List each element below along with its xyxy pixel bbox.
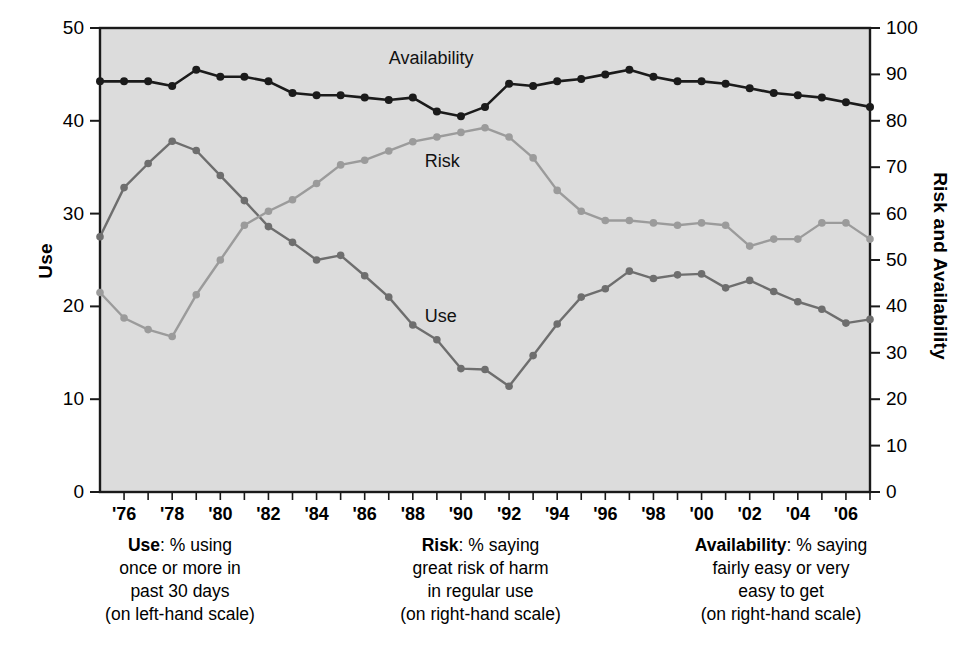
data-point: [698, 219, 706, 227]
data-point: [866, 316, 874, 324]
data-point: [481, 366, 489, 374]
data-point: [481, 103, 489, 111]
y-axis-right-tick-label: 100: [886, 18, 946, 37]
data-point: [770, 288, 778, 296]
data-point: [168, 333, 176, 341]
data-point: [601, 70, 609, 78]
data-point: [457, 112, 465, 120]
data-point: [794, 235, 802, 243]
data-point: [746, 242, 754, 250]
data-point: [361, 156, 369, 164]
y-axis-left-tick-label: 40: [24, 111, 84, 130]
data-point: [337, 161, 345, 169]
data-point: [217, 256, 225, 264]
series-annotation-risk: Risk: [425, 151, 460, 172]
caption-risk: Risk: % sayinggreat risk of harmin regul…: [335, 534, 627, 626]
data-point: [577, 293, 585, 301]
data-point: [313, 91, 321, 99]
data-point: [649, 73, 657, 81]
y-axis-right-tick-label: 10: [886, 436, 946, 455]
y-axis-left-tick-label: 10: [24, 389, 84, 408]
data-point: [192, 291, 200, 299]
y-axis-right-tick-label: 20: [886, 389, 946, 408]
caption-line: easy to get: [635, 580, 927, 603]
data-point: [866, 103, 874, 111]
y-axis-left-tick-label: 0: [24, 482, 84, 501]
data-point: [866, 235, 874, 243]
data-point: [818, 305, 826, 313]
caption-line: (on right-hand scale): [635, 603, 927, 626]
data-point: [553, 187, 561, 195]
data-point: [626, 217, 634, 225]
data-point: [120, 314, 128, 322]
data-point: [481, 124, 489, 132]
caption-line: great risk of harm: [335, 557, 627, 580]
data-point: [577, 75, 585, 83]
caption-line: (on left-hand scale): [34, 603, 326, 626]
data-point: [505, 80, 513, 88]
y-axis-left-tick-label: 50: [24, 18, 84, 37]
data-point: [818, 94, 826, 102]
data-point: [192, 66, 200, 74]
data-point: [770, 235, 778, 243]
caption-line: (on right-hand scale): [335, 603, 627, 626]
y-axis-right-tick-label: 50: [886, 250, 946, 269]
data-point: [192, 147, 200, 155]
data-point: [265, 223, 273, 231]
caption-line: once or more in: [34, 557, 326, 580]
data-point: [241, 221, 249, 229]
y-axis-right-tick-label: 40: [886, 296, 946, 315]
data-point: [409, 138, 417, 146]
y-axis-right-tick-label: 90: [886, 64, 946, 83]
data-point: [120, 77, 128, 85]
data-point: [241, 197, 249, 205]
data-point: [842, 219, 850, 227]
data-point: [264, 77, 272, 85]
data-point: [433, 108, 441, 116]
data-point: [650, 275, 658, 283]
data-point: [674, 271, 682, 279]
caption-line: fairly easy or very: [635, 557, 927, 580]
data-point: [433, 133, 441, 141]
data-point: [625, 66, 633, 74]
data-point: [650, 219, 658, 227]
data-point: [120, 184, 128, 192]
caption-line: Risk: % saying: [335, 534, 627, 557]
data-point: [722, 221, 730, 229]
y-axis-right-tick-label: 30: [886, 343, 946, 362]
data-point: [289, 89, 297, 97]
data-point: [433, 336, 441, 344]
data-point: [240, 73, 248, 81]
caption-use: Use: % usingonce or more inpast 30 days(…: [34, 534, 326, 626]
data-point: [409, 94, 417, 102]
data-point: [409, 321, 417, 329]
data-point: [722, 80, 730, 88]
data-point: [337, 252, 345, 260]
data-point: [602, 285, 610, 293]
caption-line: past 30 days: [34, 580, 326, 603]
caption-availability: Availability: % sayingfairly easy or ver…: [635, 534, 927, 626]
y-axis-right-tick-label: 60: [886, 204, 946, 223]
data-point: [674, 77, 682, 85]
data-point: [361, 94, 369, 102]
data-point: [842, 319, 850, 327]
data-point: [842, 98, 850, 106]
data-point: [505, 133, 513, 141]
data-point: [216, 73, 224, 81]
data-point: [553, 77, 561, 85]
data-point: [794, 298, 802, 306]
data-point: [553, 320, 561, 328]
data-point: [529, 154, 537, 162]
y-axis-left-tick-label: 30: [24, 204, 84, 223]
caption-row: Use: % usingonce or more inpast 30 days(…: [0, 534, 961, 662]
data-point: [289, 196, 297, 204]
caption-term: Use: [128, 535, 160, 555]
data-point: [217, 172, 225, 180]
data-point: [529, 82, 537, 90]
y-axis-right-tick-label: 80: [886, 111, 946, 130]
caption-line: in regular use: [335, 580, 627, 603]
data-point: [361, 272, 369, 280]
y-axis-left-tick-label: 20: [24, 296, 84, 315]
data-point: [144, 160, 152, 168]
y-axis-right-tick-label: 0: [886, 482, 946, 501]
